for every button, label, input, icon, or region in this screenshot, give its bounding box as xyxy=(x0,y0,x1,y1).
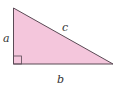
triangle xyxy=(14,8,114,64)
label-c: c xyxy=(62,21,68,34)
label-a: a xyxy=(3,32,10,45)
right-triangle-diagram: a c b xyxy=(0,0,119,88)
label-b: b xyxy=(57,73,64,86)
